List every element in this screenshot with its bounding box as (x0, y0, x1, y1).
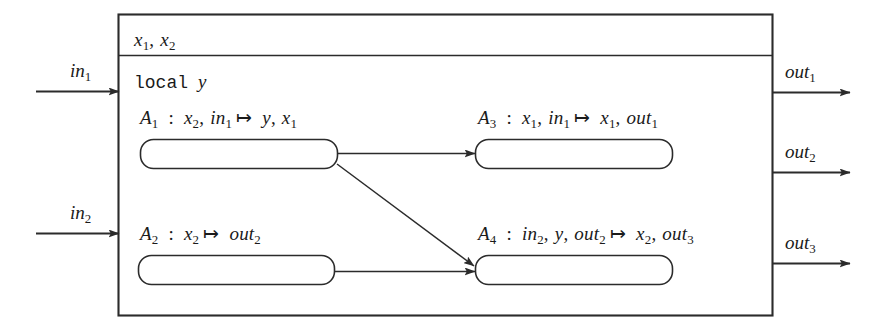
action-box-A1[interactable] (141, 140, 338, 169)
port-label-out1: out1 (785, 62, 816, 81)
action-signature-A3: A3:x1,in1↦x1,out1 (478, 108, 658, 127)
action-box-A2[interactable] (139, 256, 335, 285)
action-signature-A4: A4:in2,y,out2↦x2,out3 (478, 224, 694, 243)
action-signature-A1: A1:x2,in1↦y,x1 (140, 108, 297, 127)
diagram-canvas: x1,x2 localy A1:x2,in1↦y,x1 A3:x1,in1↦x1… (0, 0, 884, 334)
local-variable: y (198, 71, 207, 92)
action-box-A3[interactable] (476, 140, 673, 169)
state-variables-label: x1,x2 (134, 30, 176, 49)
port-label-in2: in2 (70, 203, 91, 222)
port-label-in1: in1 (70, 61, 91, 80)
diagram-svg (0, 0, 884, 334)
port-label-out2: out2 (785, 142, 816, 161)
local-keyword: local (134, 73, 188, 93)
port-label-out3: out3 (785, 233, 816, 252)
action-box-A4[interactable] (476, 256, 673, 285)
local-declaration: localy (134, 72, 207, 92)
action-signature-A2: A2:x2↦out2 (140, 224, 261, 243)
